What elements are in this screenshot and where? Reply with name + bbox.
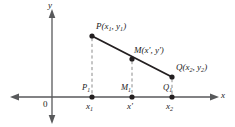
point-q1 xyxy=(169,94,174,99)
point-label-m-coords: (x', y') xyxy=(142,45,164,55)
y-axis-label: y xyxy=(48,1,52,10)
tick-label-x2: x2 xyxy=(166,102,173,111)
foot-label-q1: Q1 xyxy=(163,83,172,92)
tick-label-x2-sub: 2 xyxy=(170,106,173,112)
point-label-q-close: ) xyxy=(204,62,207,72)
point-p xyxy=(89,33,94,38)
point-label-q-xvar: x xyxy=(186,62,190,72)
foot-label-m1-sub: 1 xyxy=(128,87,131,93)
plot-points xyxy=(89,33,174,99)
origin-label: 0 xyxy=(43,100,48,109)
y-axis xyxy=(49,9,56,124)
point-label-p: P(x1, y1) xyxy=(96,22,126,31)
point-label-q-xsub: 2 xyxy=(190,67,193,73)
foot-label-p1: P1 xyxy=(82,83,90,92)
x-axis xyxy=(10,94,219,101)
x-axis-label: x xyxy=(221,91,225,100)
foot-label-p1-sub: 1 xyxy=(87,87,90,93)
point-label-p-xsub: 1 xyxy=(109,26,112,32)
foot-label-q1-sub: 1 xyxy=(169,87,172,93)
tick-label-xprime: x' xyxy=(127,102,133,111)
point-q xyxy=(169,74,174,79)
point-m1 xyxy=(129,94,134,99)
point-label-q-ysub: 2 xyxy=(201,67,204,73)
foot-label-m1: M1 xyxy=(121,83,131,92)
point-label-p-close: ) xyxy=(123,21,126,31)
tick-label-x1: x1 xyxy=(86,102,93,111)
point-label-p-xvar: x xyxy=(105,21,109,31)
point-label-q: Q(x2, y2) xyxy=(176,63,207,72)
point-p1 xyxy=(89,94,94,99)
point-label-p-ysub: 1 xyxy=(120,26,123,32)
point-m xyxy=(129,56,134,61)
tick-label-x1-sub: 1 xyxy=(90,106,93,112)
point-label-m-name: M xyxy=(134,45,142,55)
midpoint-figure: x y 0 P(x1, y1) M(x', y') Q(x2, y2) P1 M… xyxy=(0,0,235,127)
point-label-m: M(x', y') xyxy=(134,46,164,55)
